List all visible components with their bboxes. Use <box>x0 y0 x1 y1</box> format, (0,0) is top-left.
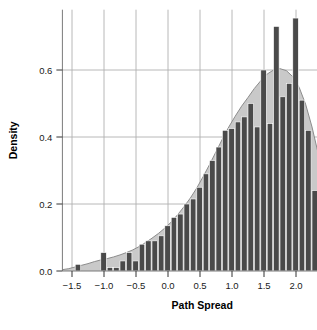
y-tick-label: 0.0 <box>39 266 52 277</box>
y-tick-label: 0.4 <box>39 132 52 143</box>
figure-canvas: −1.5−1.0−0.50.00.51.01.52.02.5 0.00.20.4… <box>0 0 317 330</box>
histogram-bar <box>107 268 113 271</box>
histogram-bar <box>254 127 260 271</box>
histogram-bar <box>261 70 267 271</box>
histogram-bar <box>178 214 184 271</box>
histogram-bar <box>274 26 280 271</box>
x-tick-label: −1.5 <box>63 280 82 291</box>
histogram-bar <box>229 129 235 271</box>
histogram-bar <box>312 191 317 271</box>
x-tick-label: 0.5 <box>193 280 206 291</box>
y-axis-title: Density <box>7 121 19 159</box>
y-tick-label: 0.6 <box>39 65 52 76</box>
histogram-bar <box>235 122 241 271</box>
histogram-bar <box>197 187 203 271</box>
histogram-bar <box>210 160 216 271</box>
histogram-bar <box>114 268 120 271</box>
y-tick-group: 0.00.20.40.6 <box>39 65 62 277</box>
density-histogram-plot: −1.5−1.0−0.50.00.51.01.52.02.5 0.00.20.4… <box>0 0 317 330</box>
histogram-bar <box>101 253 107 271</box>
histogram-bar <box>120 261 126 271</box>
histogram-bar <box>267 124 273 271</box>
histogram-bar <box>222 130 228 271</box>
histogram-bar <box>165 226 171 271</box>
histogram-bar <box>306 130 312 271</box>
x-tick-label: 1.5 <box>257 280 270 291</box>
histogram-bar <box>190 199 196 271</box>
histogram-bar <box>75 264 81 271</box>
x-tick-label: 2.0 <box>289 280 302 291</box>
histogram-bar <box>152 241 158 271</box>
histogram-bar <box>171 217 177 271</box>
histogram-bar <box>242 117 248 271</box>
histogram-bar <box>158 236 164 271</box>
histogram-bar <box>203 174 209 271</box>
histogram-bar <box>293 18 299 271</box>
histogram-bar <box>299 100 305 271</box>
x-tick-label: 0.0 <box>161 280 174 291</box>
histogram-bar <box>126 253 131 271</box>
y-tick-label: 0.2 <box>39 199 52 210</box>
histogram-bar <box>248 104 254 272</box>
x-axis-title: Path Spread <box>172 299 233 311</box>
x-tick-label: −1.0 <box>95 280 114 291</box>
histogram-bar <box>280 97 286 271</box>
x-tick-label: 1.0 <box>225 280 238 291</box>
histogram-bar <box>133 261 139 271</box>
x-tick-group: −1.5−1.0−0.50.00.51.01.52.02.5 <box>63 271 317 291</box>
x-tick-label: −0.5 <box>127 280 146 291</box>
histogram-bar <box>139 244 145 271</box>
histogram-bar <box>146 241 152 271</box>
histogram-bar <box>216 147 222 271</box>
histogram-bar <box>286 83 292 271</box>
histogram-bar <box>184 204 190 271</box>
histogram-bars-group <box>75 18 317 271</box>
